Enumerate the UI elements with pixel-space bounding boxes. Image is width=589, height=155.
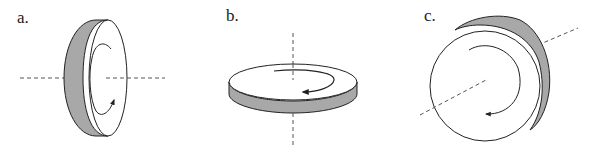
panel-c-disk [420, 16, 578, 141]
panel-b-disk [229, 33, 357, 148]
panel-a-disk [20, 20, 165, 136]
rotation-diagrams [0, 0, 589, 155]
